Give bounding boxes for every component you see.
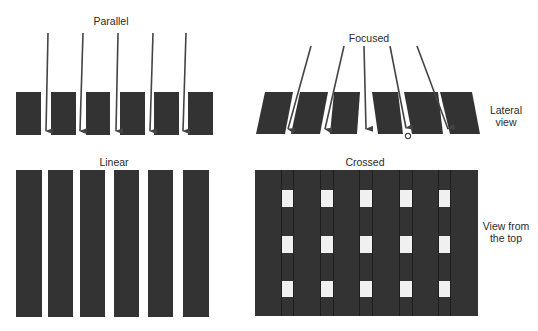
label-parallel: Parallel (86, 15, 136, 27)
label-top-view: View from the top (478, 220, 534, 244)
label-lateral-view: Lateral view (482, 104, 530, 128)
label-top-line1: View from (478, 220, 534, 232)
grid-types-diagram: Parallel Focused Linear Crossed Lateral … (0, 0, 538, 331)
crossed-grid (255, 170, 478, 316)
focused-grid-strips (256, 92, 480, 134)
diagram-canvas (0, 0, 538, 331)
label-lateral-line1: Lateral (482, 104, 530, 116)
focal-point-marker (405, 133, 410, 138)
label-crossed: Crossed (335, 156, 395, 168)
label-focused: Focused (339, 32, 399, 44)
label-linear: Linear (94, 156, 134, 168)
linear-grid-strips (16, 170, 209, 317)
label-top-line2: the top (478, 232, 534, 244)
label-lateral-line2: view (482, 116, 530, 128)
